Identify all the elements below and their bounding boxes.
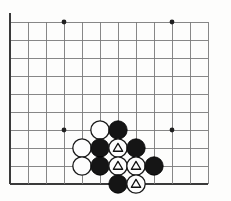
stone-black-7	[91, 157, 109, 175]
star-point-2	[62, 128, 67, 133]
stone-black-3	[91, 139, 109, 157]
stone-white-8	[109, 157, 127, 175]
stone-black-11	[109, 175, 127, 193]
star-point-0	[62, 20, 67, 25]
stone-black-5	[127, 139, 145, 157]
stone-white-9	[127, 157, 145, 175]
star-point-1	[170, 20, 175, 25]
stone-white-2	[73, 139, 91, 157]
stone-white-6	[73, 157, 91, 175]
go-board-svg	[0, 0, 231, 201]
stone-black-1	[109, 121, 127, 139]
stone-black-10	[145, 157, 163, 175]
star-point-3	[170, 128, 175, 133]
stone-white-12	[127, 175, 145, 193]
stone-white-0	[91, 121, 109, 139]
go-board-diagram	[0, 0, 231, 201]
stone-white-4	[109, 139, 127, 157]
